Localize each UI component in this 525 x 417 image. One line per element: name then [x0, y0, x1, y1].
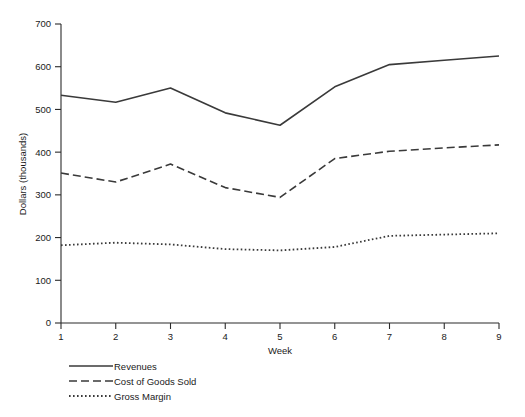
chart-legend: RevenuesCost of Goods SoldGross Margin: [69, 361, 196, 402]
legend-label-gross-margin: Gross Margin: [114, 391, 171, 402]
legend-label-revenues: Revenues: [114, 361, 157, 372]
x-tick-label: 7: [387, 331, 392, 342]
y-tick-label: 200: [35, 232, 51, 243]
series-line-gross-margin: [61, 233, 499, 250]
series-line-revenues: [61, 56, 499, 125]
y-tick-label: 300: [35, 189, 51, 200]
x-axis-ticks: 123456789: [58, 323, 501, 342]
chart-canvas: 0100200300400500600700 Dollars (thousand…: [0, 0, 525, 417]
series-lines: [61, 56, 499, 250]
y-axis-ticks: 0100200300400500600700: [35, 18, 61, 328]
y-tick-label: 700: [35, 18, 51, 29]
series-line-cost-of-goods-sold: [61, 145, 499, 198]
x-axis: 123456789 Week: [58, 323, 501, 356]
y-axis: 0100200300400500600700 Dollars (thousand…: [17, 18, 61, 328]
x-tick-label: 1: [58, 331, 63, 342]
legend-label-cost-of-goods-sold: Cost of Goods Sold: [114, 376, 196, 387]
x-tick-label: 4: [223, 331, 228, 342]
y-tick-label: 400: [35, 147, 51, 158]
x-tick-label: 6: [332, 331, 337, 342]
x-tick-label: 5: [277, 331, 282, 342]
y-tick-label: 600: [35, 61, 51, 72]
y-tick-label: 500: [35, 104, 51, 115]
x-tick-label: 2: [113, 331, 118, 342]
y-axis-title: Dollars (thousands): [17, 133, 28, 215]
x-tick-label: 3: [168, 331, 173, 342]
x-tick-label: 8: [442, 331, 447, 342]
line-chart: 0100200300400500600700 Dollars (thousand…: [0, 0, 525, 417]
x-axis-title: Week: [268, 345, 292, 356]
y-tick-label: 0: [46, 317, 51, 328]
x-tick-label: 9: [496, 331, 501, 342]
y-tick-label: 100: [35, 275, 51, 286]
